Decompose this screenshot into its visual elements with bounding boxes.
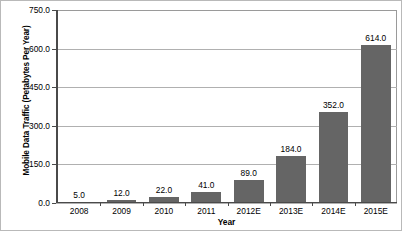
plot-right-border [396,10,397,203]
gridline [56,87,397,88]
y-axis-tick-label: 300.0 [29,121,50,131]
y-axis-tick-label: 600.0 [29,44,50,54]
y-axis-tick-label: 0.0 [38,198,50,208]
x-axis-tick-label: 2008 [70,206,89,216]
x-axis-tick-label: 2014E [321,206,345,216]
x-axis-title: Year [56,217,397,227]
x-axis-tick-label: 2011 [197,206,215,216]
plot-top-border [56,10,397,11]
plot-area: 0.0150.0300.0450.0600.0750.0 5.012.022.0… [56,10,397,203]
y-axis-tick-label: 450.0 [29,82,50,92]
bar-value-label: 12.0 [113,188,129,198]
bar: 614.0 [361,45,391,203]
bar-value-label: 89.0 [241,168,257,178]
x-axis-tick [312,203,313,206]
x-axis-tick-label: 2013E [279,206,303,216]
x-axis-tick-label: 2012E [237,206,261,216]
bar-value-label: 352.0 [323,100,344,110]
x-axis-tick [270,203,271,206]
chart-figure: Mobile Data Traffic (Petabytes Per Year)… [0,0,403,232]
x-axis-tick [143,203,144,206]
bar: 184.0 [276,156,306,203]
x-axis-tick-label: 2009 [112,206,131,216]
x-axis-tick [185,203,186,206]
bar-value-label: 184.0 [281,144,302,154]
bar: 89.0 [234,180,264,203]
gridline [56,203,397,204]
bar-value-label: 22.0 [156,185,172,195]
bar-value-label: 5.0 [73,190,85,200]
x-axis-tick-label: 2010 [155,206,174,216]
x-axis-line [56,202,397,204]
gridline [56,49,397,50]
x-axis-tick [355,203,356,206]
bar: 352.0 [319,112,349,203]
bar-value-label: 614.0 [365,33,386,43]
x-axis-tick-label: 2015E [364,206,388,216]
x-axis-tick [228,203,229,206]
y-axis-line [56,10,58,203]
y-axis-title: Mobile Data Traffic (Petabytes Per Year) [22,1,31,201]
x-axis-tick [100,203,101,206]
y-axis-tick [52,203,56,204]
y-axis-tick-label: 750.0 [29,5,50,15]
bar-value-label: 41.0 [198,180,214,190]
y-axis-tick-label: 150.0 [29,159,50,169]
